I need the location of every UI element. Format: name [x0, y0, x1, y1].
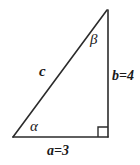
angle-label-beta: β — [90, 32, 97, 47]
hypotenuse-line-c — [13, 10, 107, 137]
right-triangle-figure: β α c b=4 a=3 — [0, 0, 140, 165]
side-label-vertical-b: b=4 — [112, 69, 134, 83]
side-label-hypotenuse-c: c — [39, 64, 46, 79]
right-angle-marker-icon — [98, 127, 108, 137]
angle-label-alpha: α — [30, 119, 38, 134]
side-label-horizontal-a: a=3 — [47, 144, 69, 158]
